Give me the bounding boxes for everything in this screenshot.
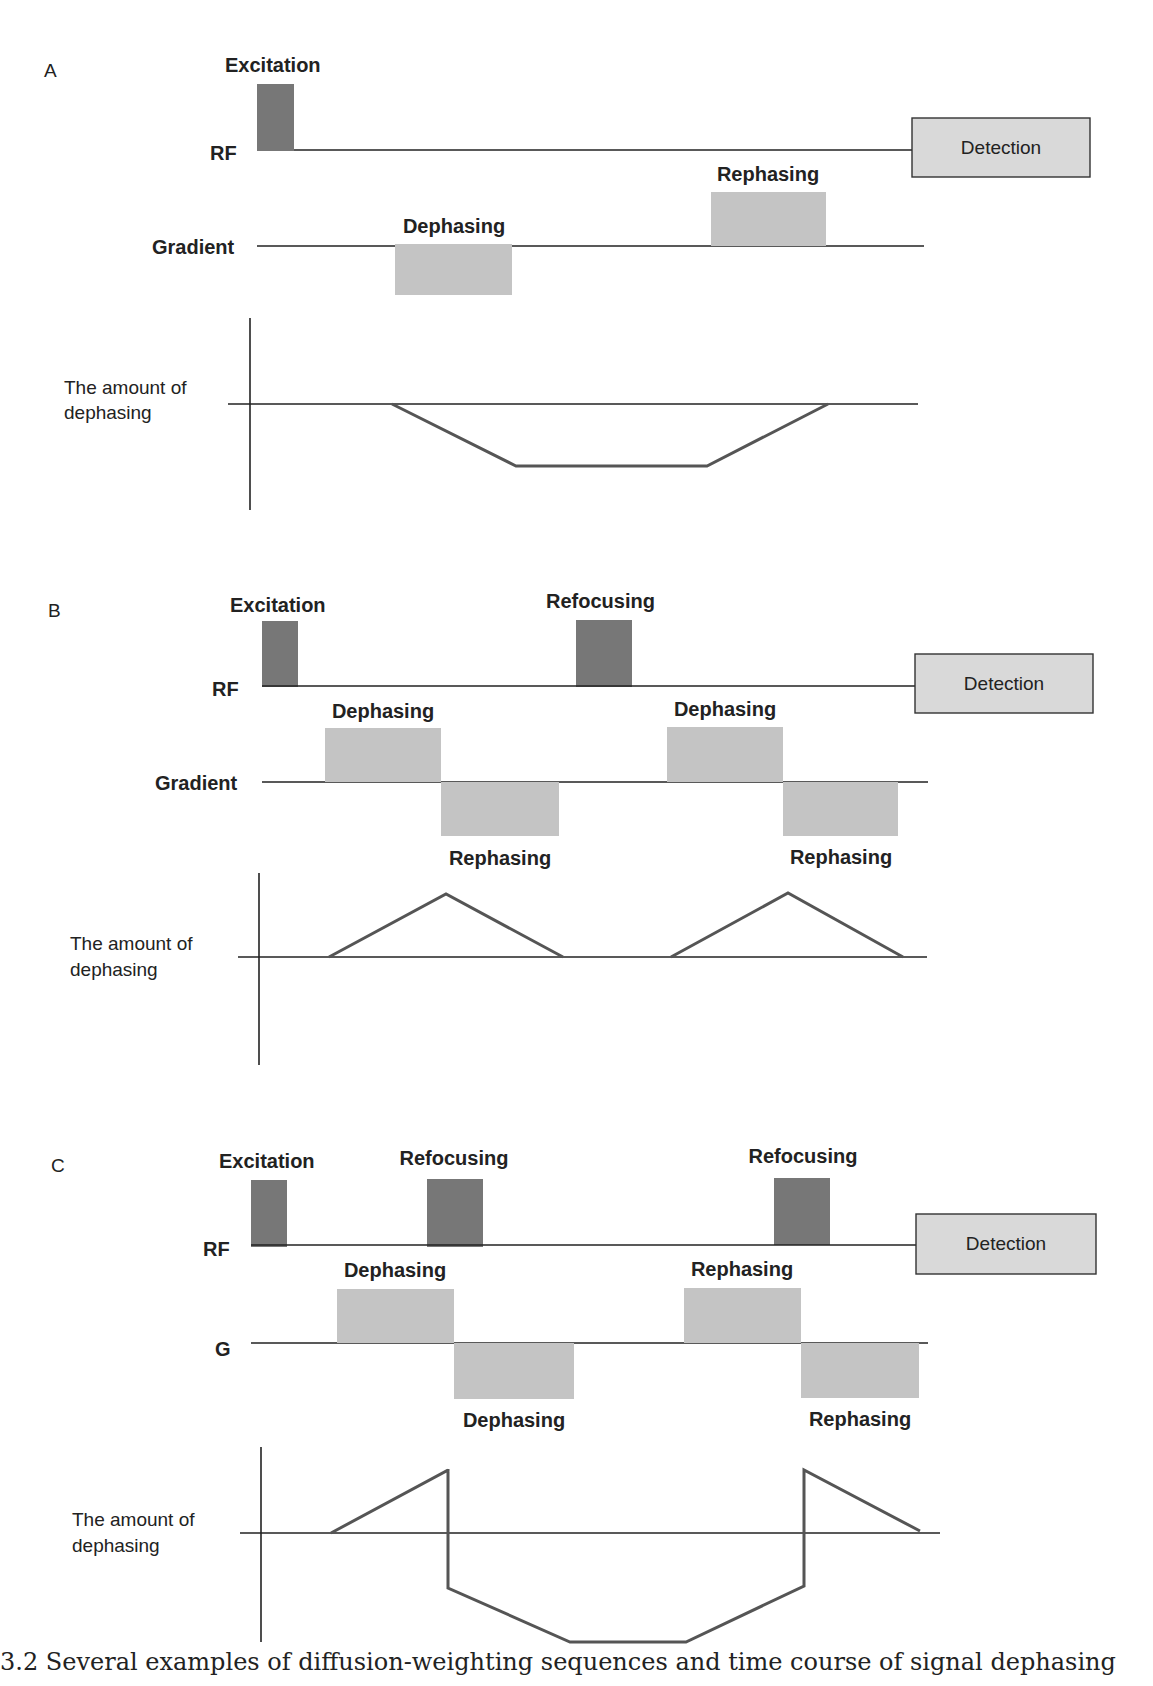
refocusing-label-2: Refocusing: [749, 1145, 858, 1167]
dephasing-label: Dephasing: [403, 215, 505, 237]
excitation-pulse: [262, 621, 298, 687]
detection-label: Detection: [964, 673, 1044, 694]
dephasing-gradient-pulse-1: [337, 1289, 454, 1343]
excitation-pulse: [257, 84, 294, 151]
dephasing-gradient-pulse-1: [325, 728, 441, 782]
dephasing-curve: [331, 1469, 920, 1642]
dephasing-gradient-pulse: [395, 244, 512, 295]
rephasing-gradient-pulse: [711, 192, 826, 246]
pulse-sequence-diagram: A Excitation RF Detection Gradient Depha…: [0, 0, 1153, 1686]
gradient-label: Gradient: [155, 772, 238, 794]
gradient-label: Gradient: [152, 236, 235, 258]
dephasing-label-2: Dephasing: [463, 1409, 565, 1431]
gradient-label: G: [215, 1338, 231, 1360]
rf-label: RF: [210, 142, 237, 164]
panel-b: B Excitation Refocusing RF Detection Gra…: [48, 590, 1093, 1065]
refocusing-pulse-1: [427, 1179, 483, 1247]
rephasing-gradient-pulse-1: [684, 1288, 801, 1343]
dephasing-curve-2: [671, 893, 903, 957]
dephasing-gradient-pulse-2: [667, 727, 783, 782]
dephasing-label-2: Dephasing: [674, 698, 776, 720]
panel-a: A Excitation RF Detection Gradient Depha…: [44, 54, 1090, 510]
rephasing-label: Rephasing: [717, 163, 819, 185]
refocusing-pulse: [576, 620, 632, 687]
dephasing-label-1: Dephasing: [332, 700, 434, 722]
rephasing-gradient-pulse-1: [441, 782, 559, 836]
rephasing-gradient-pulse-2: [783, 782, 898, 836]
rephasing-label-1: Rephasing: [449, 847, 551, 869]
panel-c: C Excitation Refocusing Refocusing RF De…: [51, 1145, 1096, 1642]
refocusing-label: Refocusing: [546, 590, 655, 612]
dephasing-curve: [392, 404, 828, 466]
rephasing-label-2: Rephasing: [809, 1408, 911, 1430]
figure-caption: 3.2 Several examples of diffusion-weight…: [0, 1648, 1153, 1686]
amount-label-line1: The amount of: [70, 933, 193, 954]
rephasing-label-2: Rephasing: [790, 846, 892, 868]
excitation-label: Excitation: [219, 1150, 315, 1172]
panel-letter: B: [48, 600, 61, 621]
refocusing-pulse-2: [774, 1178, 830, 1245]
rephasing-gradient-pulse-2: [801, 1343, 919, 1398]
detection-label: Detection: [966, 1233, 1046, 1254]
rf-label: RF: [212, 678, 239, 700]
rf-label: RF: [203, 1238, 230, 1260]
dephasing-gradient-pulse-2: [454, 1343, 574, 1399]
excitation-label: Excitation: [230, 594, 326, 616]
excitation-label: Excitation: [225, 54, 321, 76]
detection-label: Detection: [961, 137, 1041, 158]
dephasing-label-1: Dephasing: [344, 1259, 446, 1281]
amount-label-line1: The amount of: [64, 377, 187, 398]
panel-letter: A: [44, 60, 57, 81]
amount-label-line2: dephasing: [64, 402, 152, 423]
rephasing-label-1: Rephasing: [691, 1258, 793, 1280]
excitation-pulse: [251, 1180, 287, 1247]
amount-label-line1: The amount of: [72, 1509, 195, 1530]
amount-label-line2: dephasing: [70, 959, 158, 980]
refocusing-label-1: Refocusing: [400, 1147, 509, 1169]
dephasing-curve-1: [329, 894, 563, 957]
panel-letter: C: [51, 1155, 65, 1176]
amount-label-line2: dephasing: [72, 1535, 160, 1556]
